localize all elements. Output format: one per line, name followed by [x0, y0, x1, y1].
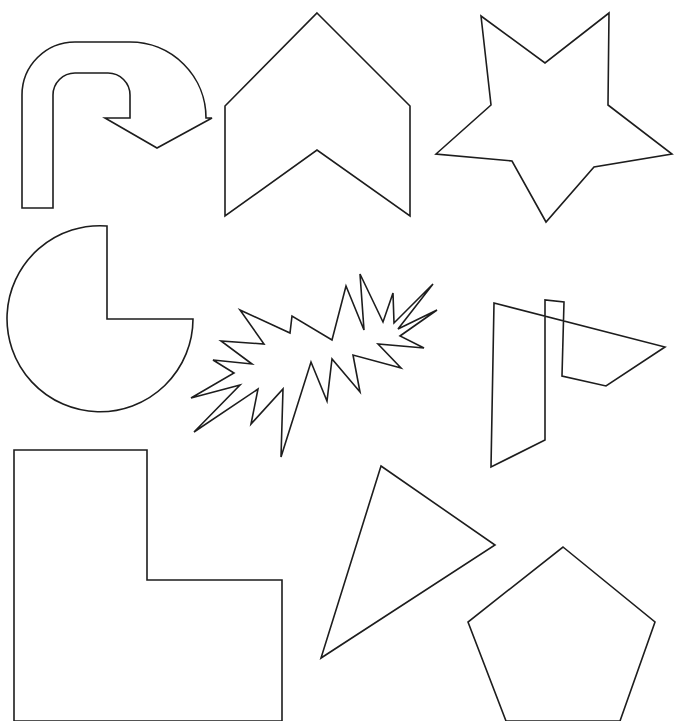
shape-drawing-surface: U-turn arrowUp chevron block arrowFive p… [0, 0, 674, 721]
shape-sheet-canvas: U-turn arrowUp chevron block arrowFive p… [0, 0, 674, 721]
shape-layer: U-turn arrowUp chevron block arrowFive p… [7, 13, 672, 721]
